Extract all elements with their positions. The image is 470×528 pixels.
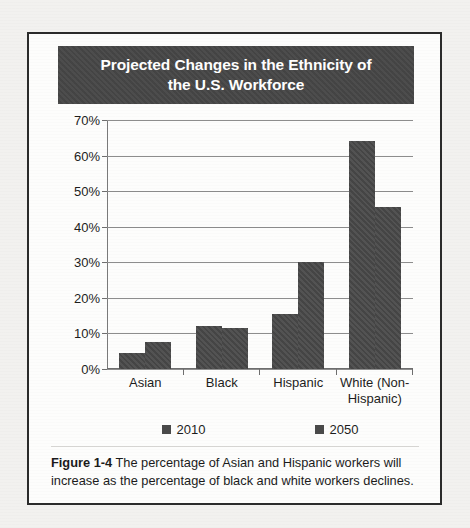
x-axis-label-hispanic: Hispanic — [260, 375, 337, 406]
x-tick-mark — [259, 369, 260, 375]
bar-group-white-non-hispanic — [337, 120, 414, 369]
legend-label: 2010 — [177, 422, 206, 437]
y-axis-tick-label: 20% — [74, 290, 100, 305]
bar-2050[interactable] — [298, 262, 324, 369]
x-tick-mark — [183, 369, 184, 375]
x-axis-labels: AsianBlackHispanicWhite (Non-Hispanic) — [107, 375, 413, 406]
legend-item-2010[interactable]: 2010 — [162, 422, 206, 437]
caption-label: Figure 1-4 — [51, 455, 112, 470]
legend-label: 2050 — [330, 422, 359, 437]
bar-2010[interactable] — [272, 314, 298, 369]
y-axis-tick-label: 30% — [74, 255, 100, 270]
bar-2050[interactable] — [145, 342, 171, 369]
chart-legend: 20102050 — [107, 422, 413, 437]
legend-swatch-icon — [315, 425, 324, 434]
bar-2010[interactable] — [119, 353, 145, 369]
y-axis-tick-label: 70% — [74, 113, 100, 128]
x-axis-label-white-non-hispanic: White (Non-Hispanic) — [337, 375, 414, 406]
bar-group-hispanic — [260, 120, 337, 369]
y-axis-tick-label: 0% — [81, 362, 100, 377]
y-axis-tick-label: 40% — [74, 219, 100, 234]
gridline-0 — [107, 369, 413, 370]
bar-2050[interactable] — [375, 207, 401, 369]
y-axis-tick-label: 60% — [74, 148, 100, 163]
caption-divider — [51, 446, 419, 447]
x-tick-mark — [412, 369, 413, 375]
x-axis-label-black: Black — [184, 375, 261, 406]
legend-swatch-icon — [162, 425, 171, 434]
legend-item-2050[interactable]: 2050 — [315, 422, 359, 437]
bar-chart: 70%60%50%40%30%20%10%0% AsianBlackHispan… — [29, 34, 440, 503]
bar-2050[interactable] — [222, 328, 248, 369]
y-axis-tick-label: 50% — [74, 184, 100, 199]
bar-2010[interactable] — [196, 326, 222, 369]
figure-container: Projected Changes in the Ethnicity of th… — [27, 32, 442, 505]
y-tick-mark — [102, 369, 107, 370]
x-tick-mark — [336, 369, 337, 375]
bar-groups — [107, 120, 413, 369]
bar-group-black — [184, 120, 261, 369]
plot-area: 70%60%50%40%30%20%10%0% — [107, 120, 413, 369]
x-axis-label-asian: Asian — [107, 375, 184, 406]
bar-group-asian — [107, 120, 184, 369]
bar-2010[interactable] — [349, 141, 375, 369]
y-axis-tick-label: 10% — [74, 326, 100, 341]
figure-caption: Figure 1-4 The percentage of Asian and H… — [51, 454, 423, 490]
